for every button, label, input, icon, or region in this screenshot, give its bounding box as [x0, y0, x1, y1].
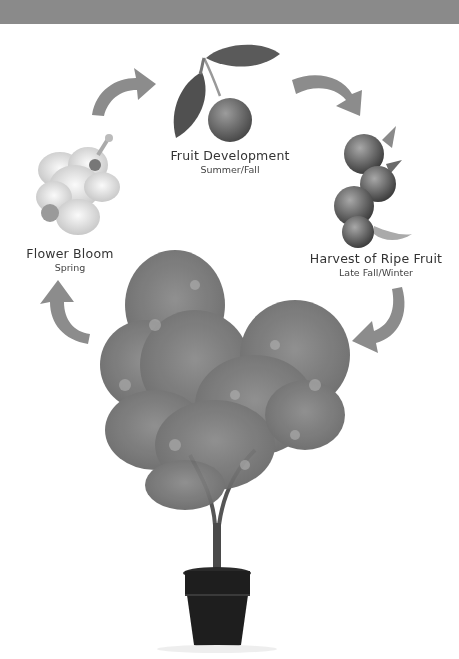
curved-arrow-icon: [34, 278, 90, 350]
stage-title: Fruit Development: [150, 148, 310, 163]
stage-season: Summer/Fall: [150, 164, 310, 175]
flower-icon: [20, 125, 130, 245]
top-banner: [0, 0, 459, 24]
fruit-branch-icon: [168, 40, 288, 150]
stage-label-fruit-development: Fruit Development Summer/Fall: [150, 148, 310, 175]
curved-arrow-icon: [290, 68, 370, 118]
potted-tree-icon: [95, 245, 365, 655]
ripe-fruit-cluster-icon: [330, 120, 420, 250]
curved-arrow-icon: [88, 60, 158, 120]
